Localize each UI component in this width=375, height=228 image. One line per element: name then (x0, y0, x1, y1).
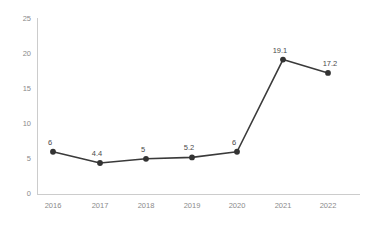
x-tick-label-2019: 2019 (184, 201, 201, 210)
data-point-2022 (325, 70, 331, 76)
y-axis: 25 20 15 10 5 0 (23, 14, 37, 198)
y-tick-label-5: 5 (27, 154, 31, 163)
y-tick-label-15: 15 (23, 84, 31, 93)
data-point-2018 (143, 156, 149, 162)
data-point-2021 (280, 57, 286, 63)
y-tick-label-10: 10 (23, 119, 31, 128)
data-label-2016: 6 (48, 138, 52, 147)
data-label-2022: 17.2 (323, 59, 338, 68)
data-label-2020: 6 (232, 138, 236, 147)
y-tick-label-20: 20 (23, 49, 31, 58)
data-label-2019: 5.2 (184, 143, 194, 152)
data-point-2016 (50, 149, 56, 155)
data-point-2019 (189, 154, 195, 160)
data-series: 64.455.2619.117.2 (48, 46, 337, 166)
x-tick-label-2018: 2018 (138, 201, 155, 210)
data-label-2018: 5 (141, 145, 145, 154)
data-label-2017: 4.4 (92, 149, 102, 158)
x-tick-label-2016: 2016 (45, 201, 62, 210)
x-tick-label-2017: 2017 (92, 201, 109, 210)
y-tick-label-25: 25 (23, 14, 31, 23)
x-tick-label-2021: 2021 (275, 201, 292, 210)
line-chart: 25 20 15 10 5 0 2016 2017 2018 2019 2020… (0, 0, 375, 228)
data-point-2017 (97, 160, 103, 166)
chart-canvas: 25 20 15 10 5 0 2016 2017 2018 2019 2020… (0, 0, 375, 228)
x-tick-label-2022: 2022 (320, 201, 337, 210)
data-label-2021: 19.1 (273, 46, 288, 55)
x-tick-label-2020: 2020 (229, 201, 246, 210)
y-tick-label-0: 0 (27, 189, 31, 198)
x-axis: 2016 2017 2018 2019 2020 2021 2022 (37, 194, 360, 210)
data-point-2020 (234, 149, 240, 155)
